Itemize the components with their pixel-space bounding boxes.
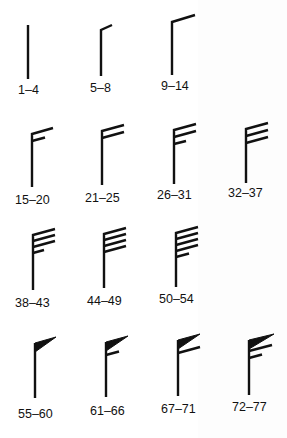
- speed-label-15-20: 15–20: [15, 194, 50, 207]
- speed-label-1-4: 1–4: [18, 84, 39, 97]
- wind-barb-26-31-icon: [174, 124, 196, 184]
- speed-label-32-37: 32–37: [228, 187, 263, 200]
- wind-barb-55-60-icon: [35, 337, 56, 398]
- wind-barb-67-71-icon: [178, 334, 200, 396]
- wind-barb-32-37-icon: [246, 123, 268, 183]
- speed-label-21-25: 21–25: [85, 192, 120, 205]
- speed-label-72-77: 72–77: [232, 401, 267, 414]
- wind-barb-50-54-icon: [176, 227, 198, 287]
- wind-barb-44-49-icon: [104, 228, 126, 288]
- wind-barb-5-8-icon: [101, 25, 112, 76]
- wind-barb-9-14-icon: [172, 15, 195, 75]
- wind-barb-72-77-icon: [249, 334, 274, 395]
- speed-label-67-71: 67–71: [161, 403, 196, 416]
- wind-barb-diagram: [0, 0, 287, 438]
- wind-barb-21-25-icon: [102, 125, 124, 185]
- speed-label-38-43: 38–43: [15, 297, 50, 310]
- speed-label-26-31: 26–31: [157, 189, 192, 202]
- speed-label-50-54: 50–54: [159, 293, 194, 306]
- wind-barb-15-20-icon: [32, 128, 53, 187]
- speed-label-55-60: 55–60: [18, 408, 53, 421]
- speed-label-9-14: 9–14: [161, 80, 189, 93]
- speed-label-61-66: 61–66: [90, 405, 125, 418]
- speed-label-5-8: 5–8: [90, 82, 111, 95]
- wind-barb-38-43-icon: [33, 229, 55, 290]
- wind-barb-61-66-icon: [106, 336, 128, 397]
- speed-label-44-49: 44–49: [87, 295, 122, 308]
